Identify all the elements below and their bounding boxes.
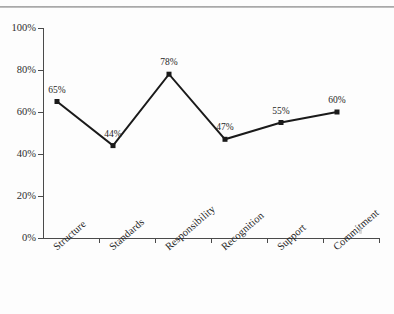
data-point-marker (279, 120, 284, 125)
data-point-label: 55% (272, 106, 289, 116)
data-point-marker (167, 72, 172, 77)
series-markers (55, 72, 340, 148)
data-point-marker (55, 99, 60, 104)
series-line (57, 74, 337, 145)
data-series (0, 0, 394, 314)
data-point-marker (223, 137, 228, 142)
data-point-label: 78% (160, 57, 177, 67)
data-point-label: 44% (104, 129, 121, 139)
plot-area: 0%20%40%60%80%100% 65%44%78%47%55%60% St… (0, 0, 394, 314)
data-point-marker (335, 110, 340, 115)
chart-page: 0%20%40%60%80%100% 65%44%78%47%55%60% St… (0, 0, 394, 314)
data-point-marker (111, 143, 116, 148)
data-point-label: 60% (328, 95, 345, 105)
data-point-label: 65% (48, 85, 65, 95)
data-point-label: 47% (216, 122, 233, 132)
scan-artifact-speck (359, 227, 362, 234)
